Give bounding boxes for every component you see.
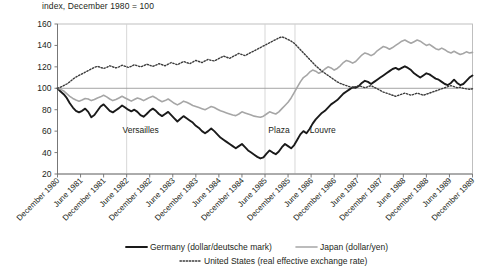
chart-canvas: 20406080100120140160 December 1980June 1… [0, 0, 480, 277]
y-tick-label: 100 [37, 83, 51, 93]
y-tick-label: 40 [42, 148, 52, 158]
chart-figure: index, December 1980 = 100 2040608010012… [0, 0, 480, 277]
y-tick-label: 20 [42, 169, 52, 179]
y-tick-label: 80 [42, 105, 52, 115]
legend-label: Germany (dollar/deutsche mark) [150, 242, 272, 252]
y-tick-label: 140 [37, 40, 51, 50]
annotation-layer: VersaillesPlazaLouvre [122, 125, 336, 135]
plot-annotation: Plaza [268, 125, 290, 135]
y-tick-label: 160 [37, 19, 51, 29]
plot-annotation: Versailles [122, 125, 158, 135]
x-axis: December 1980June 1981December 1981June … [15, 174, 477, 223]
y-tick-label: 60 [42, 126, 52, 136]
plot-annotation: Louvre [310, 125, 336, 135]
y-tick-label: 120 [37, 62, 51, 72]
chart-legend: Germany (dollar/deutsche mark)Japan (dol… [126, 242, 388, 266]
y-axis: 20406080100120140160 [37, 19, 57, 179]
x-tick-label: December 1989 [430, 176, 477, 223]
legend-label: United States (real effective exchange r… [204, 256, 367, 266]
legend-label: Japan (dollar/yen) [320, 242, 388, 252]
